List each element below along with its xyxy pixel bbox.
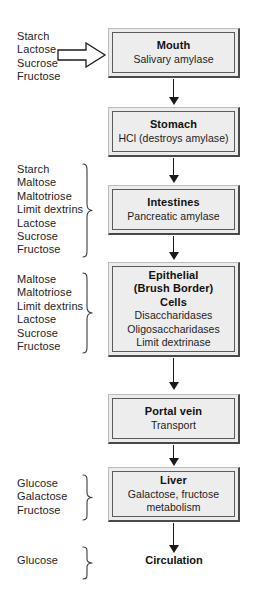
node-circulation-title: Circulation bbox=[145, 554, 202, 566]
connector-epithelial-to-portal-vein-head bbox=[169, 382, 179, 390]
curly-brace-epithelial-inputs bbox=[80, 272, 94, 354]
substrate-item: Fructose bbox=[17, 504, 67, 517]
node-liver-line: Galactose, fructose bbox=[128, 488, 219, 501]
substrate-item: Maltotriose bbox=[17, 190, 83, 203]
node-epithelial-line: Oligosaccharidases bbox=[127, 323, 220, 336]
node-epithelial-line: Disaccharidases bbox=[135, 309, 213, 322]
substrate-item: Fructose bbox=[17, 70, 61, 83]
substrate-group-circulation-inputs: Glucose bbox=[17, 554, 58, 567]
connector-mouth-to-stomach-head bbox=[169, 97, 179, 105]
connector-mouth-to-stomach bbox=[173, 79, 174, 99]
substrate-item: Limit dextrins bbox=[17, 300, 83, 313]
node-epithelial[interactable]: Epithelial (Brush Border) Cells Disaccha… bbox=[108, 262, 240, 357]
substrate-item: Glucose bbox=[17, 554, 58, 567]
substrate-item: Galactose bbox=[17, 490, 67, 503]
substrate-item: Fructose bbox=[17, 243, 83, 256]
substrate-item: Fructose bbox=[17, 340, 83, 353]
node-epithelial-title: Epithelial bbox=[149, 269, 199, 283]
substrate-item: Sucrose bbox=[17, 57, 61, 70]
node-portal-vein-line: Transport bbox=[151, 419, 196, 432]
node-intestines-title: Intestines bbox=[147, 196, 199, 210]
node-intestines-line: Pancreatic amylase bbox=[127, 210, 220, 223]
node-portal-vein[interactable]: Portal vein Transport bbox=[108, 394, 240, 444]
substrate-item: Glucose bbox=[17, 477, 67, 490]
curly-brace-intestines-inputs bbox=[80, 163, 94, 258]
substrate-item: Lactose bbox=[17, 313, 83, 326]
substrate-item: Limit dextrins bbox=[17, 203, 83, 216]
hollow-right-arrow-icon bbox=[57, 42, 107, 68]
substrate-item: Maltotriose bbox=[17, 286, 83, 299]
curly-brace-circulation-inputs bbox=[80, 546, 94, 580]
node-liver-line: metabolism bbox=[146, 501, 200, 514]
substrate-item: Sucrose bbox=[17, 327, 83, 340]
connector-liver-to-circulation-head bbox=[169, 545, 179, 553]
substrate-item: Maltose bbox=[17, 273, 83, 286]
substrate-group-intestines-inputs: Starch Maltose Maltotriose Limit dextrin… bbox=[17, 163, 83, 257]
node-circulation[interactable]: Circulation bbox=[108, 554, 240, 566]
substrate-group-liver-inputs: Glucose Galactose Fructose bbox=[17, 477, 67, 517]
flowchart-canvas: Starch Lactose Sucrose Fructose Mouth Sa… bbox=[0, 0, 256, 606]
substrate-item: Lactose bbox=[17, 217, 83, 230]
node-mouth[interactable]: Mouth Salivary amylase bbox=[108, 28, 240, 78]
substrate-item: Sucrose bbox=[17, 230, 83, 243]
node-stomach-line: HCl (destroys amylase) bbox=[118, 132, 228, 145]
connector-epithelial-to-portal-vein bbox=[173, 358, 174, 384]
curly-brace-liver-inputs bbox=[80, 474, 94, 521]
substrate-item: Lactose bbox=[17, 43, 61, 56]
node-intestines[interactable]: Intestines Pancreatic amylase bbox=[108, 185, 240, 235]
substrate-item: Maltose bbox=[17, 176, 83, 189]
node-liver-title: Liver bbox=[160, 474, 187, 488]
node-mouth-title: Mouth bbox=[157, 39, 190, 53]
node-epithelial-title2: (Brush Border) bbox=[134, 282, 214, 296]
substrate-item: Starch bbox=[17, 163, 83, 176]
connector-stomach-to-intestines-head bbox=[169, 175, 179, 183]
substrate-item: Starch bbox=[17, 30, 61, 43]
node-mouth-line: Salivary amylase bbox=[133, 53, 213, 66]
node-stomach-title: Stomach bbox=[150, 118, 197, 132]
node-stomach[interactable]: Stomach HCl (destroys amylase) bbox=[108, 107, 240, 157]
node-liver[interactable]: Liver Galactose, fructose metabolism bbox=[108, 467, 240, 522]
connector-intestines-to-epithelial-head bbox=[169, 252, 179, 260]
connector-portal-vein-to-liver-head bbox=[169, 458, 179, 466]
substrate-group-mouth-inputs: Starch Lactose Sucrose Fructose bbox=[17, 30, 61, 84]
substrate-group-epithelial-inputs: Maltose Maltotriose Limit dextrins Lacto… bbox=[17, 273, 83, 353]
node-epithelial-title3: Cells bbox=[160, 296, 187, 310]
node-portal-vein-title: Portal vein bbox=[145, 405, 202, 419]
node-epithelial-line: Limit dextrinase bbox=[136, 336, 210, 349]
connector-liver-to-circulation bbox=[173, 523, 174, 547]
